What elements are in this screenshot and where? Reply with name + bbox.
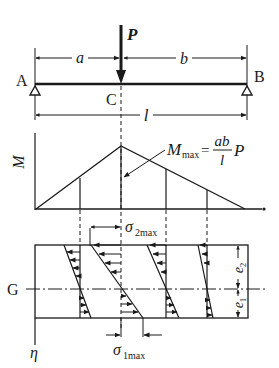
e1-sub: 1 <box>238 298 248 303</box>
beam-cross-section-outline <box>35 245 248 318</box>
support-a-icon <box>30 86 40 95</box>
eta-axis-label: η <box>30 344 38 362</box>
mmax-equals: = <box>201 142 209 158</box>
sigma2-main: σ <box>125 218 134 235</box>
load-arrow-head <box>116 70 126 84</box>
mmax-denominator: l <box>220 152 224 168</box>
e2-label: e2 <box>231 263 248 274</box>
support-b-label: B <box>254 68 265 85</box>
load-point-label: C <box>106 91 117 108</box>
load-label: P <box>126 25 138 44</box>
dim-a-label: a <box>76 49 84 66</box>
stress-profile-2 <box>91 245 143 318</box>
mmax-numerator: ab <box>215 133 231 149</box>
dim-b-label: b <box>180 50 188 67</box>
sigma1-sub: 1max <box>123 350 145 361</box>
beam-section: a b P A B C l <box>16 25 265 125</box>
moment-curve <box>36 146 245 209</box>
mmax-leader-arrow <box>124 150 165 177</box>
moment-axis-label: M <box>10 154 27 170</box>
sigma2-sub: 2max <box>135 227 157 238</box>
baseline-end-dot <box>262 207 265 210</box>
neutral-axis-label: G <box>7 281 19 298</box>
mmax-factor: P <box>233 141 244 160</box>
span-label: l <box>144 106 149 125</box>
mmax-main: M <box>166 140 182 159</box>
stress-profile-3 <box>147 245 179 318</box>
support-a-label: A <box>16 72 28 89</box>
sigma1-main: σ <box>113 341 122 358</box>
support-b-icon <box>242 86 252 95</box>
stress-profile-4 <box>198 245 213 318</box>
beam-stress-diagram: a b P A B C l M <box>0 0 279 368</box>
mmax-sub: max <box>182 149 199 160</box>
stress-diagram: σ 2max η G <box>7 218 268 362</box>
stress-profile-1 <box>64 245 91 318</box>
e2-sub: 2 <box>238 263 248 268</box>
e1-label: e1 <box>231 298 248 309</box>
mmax-formula: M max = ab l P <box>166 133 244 168</box>
moment-diagram: M M max = ab l P <box>10 133 266 211</box>
